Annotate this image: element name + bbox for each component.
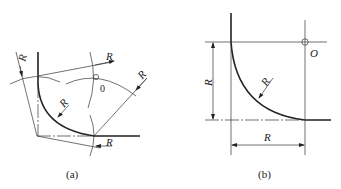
center-mark-icon: [93, 74, 98, 79]
fillet-profile-a: [38, 52, 140, 136]
caption-a: (a): [66, 168, 79, 181]
center-label-b: O: [310, 47, 318, 59]
radius-label-b: R: [258, 75, 272, 88]
arrow-left: [20, 66, 22, 76]
offset-line-left: [16, 52, 37, 136]
radius-label-right: R: [134, 68, 148, 82]
construction-arc-upper-left: [10, 76, 60, 84]
radius-label-fillet: R: [56, 96, 70, 110]
figure-b: O R R R (b): [202, 13, 331, 181]
caption-b: (b): [258, 168, 271, 181]
offset-line-bottom: [37, 136, 100, 148]
radius-label-bottom: R: [105, 136, 113, 148]
construction-arc-vertical-upper: [88, 52, 94, 108]
diagram-canvas: R R R R R 0 (a) O R R R (b): [0, 0, 341, 189]
horizontal-dim-label: R: [263, 131, 271, 143]
figure-a: R R R R R 0 (a): [10, 50, 148, 181]
radius-label-left: R: [15, 53, 29, 64]
center-label-a: 0: [100, 83, 105, 94]
vertical-dim-label: R: [202, 79, 214, 87]
radius-label-upper: R: [105, 50, 113, 62]
